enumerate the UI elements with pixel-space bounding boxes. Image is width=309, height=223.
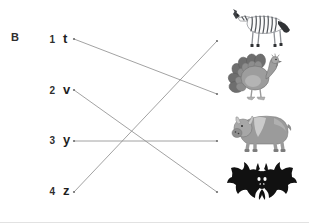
connector-z-zebra[interactable] [74, 41, 217, 192]
animal-yak[interactable] [222, 104, 302, 156]
turkey-icon [222, 52, 302, 104]
connector-t-turkey[interactable] [74, 39, 217, 94]
zebra-icon [222, 0, 302, 52]
bat-icon [222, 156, 302, 208]
matching-worksheet: B 1 t 2 v 3 y 4 z [0, 0, 309, 223]
animal-bat[interactable] [222, 156, 302, 208]
animal-zebra[interactable] [222, 0, 302, 52]
bottom-divider [0, 222, 309, 223]
yak-icon [222, 104, 302, 156]
animal-turkey[interactable] [222, 52, 302, 104]
